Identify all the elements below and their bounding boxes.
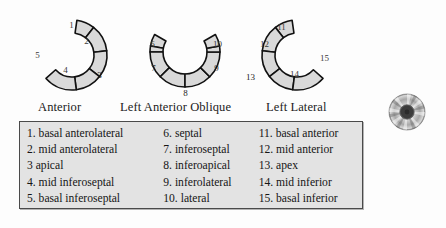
caption-left-lateral: Left Lateral — [266, 100, 327, 115]
legend-item-number: 11. — [259, 127, 273, 140]
legend-item: 2. mid anterolateral — [27, 142, 163, 158]
legend-item-label: inferoseptal — [175, 143, 230, 156]
legend-item-label: basal inferior — [276, 192, 337, 205]
legend-item-number: 6. — [163, 127, 172, 140]
legend-item-label: septal — [175, 127, 202, 140]
legend-item-label: lateral — [181, 192, 210, 205]
legend-item: 5. basal inferoseptal — [27, 191, 163, 207]
segment-label-6: 6 — [150, 39, 155, 49]
legend-column-1: 1. basal anterolateral 2. mid anterolate… — [27, 126, 163, 207]
legend-item-number: 10. — [163, 192, 178, 205]
legend-item-number: 9. — [163, 176, 172, 189]
legend-item-number: 4. — [27, 176, 36, 189]
view-anterior-shape — [37, 17, 121, 100]
legend-item: 9. inferolateral — [163, 175, 258, 191]
segment-label-9: 9 — [214, 63, 219, 73]
caption-left-anterior-oblique: Left Anterior Oblique — [120, 100, 231, 115]
legend-item-label: inferolateral — [175, 176, 232, 189]
legend-item-label: apex — [276, 159, 298, 172]
legend-item-number: 8. — [163, 159, 172, 172]
legend-item: 3 apical — [27, 158, 163, 174]
legend-item: 1. basal anterolateral — [27, 126, 163, 142]
segment-label-3: 3 — [97, 70, 102, 80]
segment-label-1: 1 — [69, 20, 74, 30]
legend-item: 11. basal anterior — [259, 126, 356, 142]
legend-item-label: mid inferior — [276, 176, 332, 189]
segment-label-8: 8 — [183, 88, 188, 98]
legend-item: 6. septal — [163, 126, 258, 142]
legend-item-number: 13. — [259, 159, 274, 172]
legend-item-label: basal anterior — [276, 127, 339, 140]
legend-item-label: basal inferoseptal — [39, 192, 120, 205]
legend-box: 1. basal anterolateral 2. mid anterolate… — [19, 121, 363, 209]
legend-item: 10. lateral — [163, 191, 258, 207]
segment-label-4: 4 — [63, 65, 68, 75]
legend-item: 8. inferoapical — [163, 158, 258, 174]
legend-item-label: mid anterior — [276, 143, 333, 156]
caption-anterior: Anterior — [38, 100, 81, 115]
segment-label-15: 15 — [320, 53, 330, 63]
legend-item-number: 12. — [259, 143, 274, 156]
legend-item-label: mid inferoseptal — [39, 176, 115, 189]
legend-column-3: 11. basal anterior 12. mid anterior 13. … — [259, 126, 356, 207]
segment-diagrams: 1 2 3 4 5 6 7 8 9 10 — [0, 0, 446, 100]
legend-item-number: 1. — [27, 127, 36, 140]
segment-label-14: 14 — [290, 69, 300, 79]
legend-item-label: mid anterolateral — [39, 143, 118, 156]
legend-item-number: 15. — [259, 192, 274, 205]
segment-label-5: 5 — [35, 50, 40, 60]
legend-item: 14. mid inferior — [259, 175, 356, 191]
segment-label-10: 10 — [213, 39, 223, 49]
legend-item-number: 7. — [163, 143, 172, 156]
legend-item: 15. basal inferior — [259, 191, 356, 207]
legend-item: 7. inferoseptal — [163, 142, 258, 158]
legend-item-number: 2. — [27, 143, 36, 156]
legend-item-number: 3 — [27, 159, 33, 172]
compact-disc-icon — [388, 93, 426, 131]
segment-label-11: 11 — [277, 22, 286, 32]
segment-label-2: 2 — [84, 36, 89, 46]
figure-canvas: 1 2 3 4 5 6 7 8 9 10 — [0, 0, 446, 228]
view-lao-shape — [150, 34, 220, 87]
legend-column-2: 6. septal 7. inferoseptal 8. inferoapica… — [163, 126, 258, 207]
legend-item: 13. apex — [259, 158, 356, 174]
legend-item: 12. mid anterior — [259, 142, 356, 158]
legend-item-number: 14. — [259, 176, 274, 189]
legend-item-label: apical — [36, 159, 64, 172]
segment-label-13: 13 — [246, 72, 256, 82]
legend-item-number: 5. — [27, 192, 36, 205]
segment-label-12: 12 — [260, 39, 269, 49]
legend-item: 4. mid inferoseptal — [27, 175, 163, 191]
segment-label-7: 7 — [151, 63, 156, 73]
legend-item-label: inferoapical — [175, 159, 230, 172]
legend-item-label: basal anterolateral — [39, 127, 124, 140]
